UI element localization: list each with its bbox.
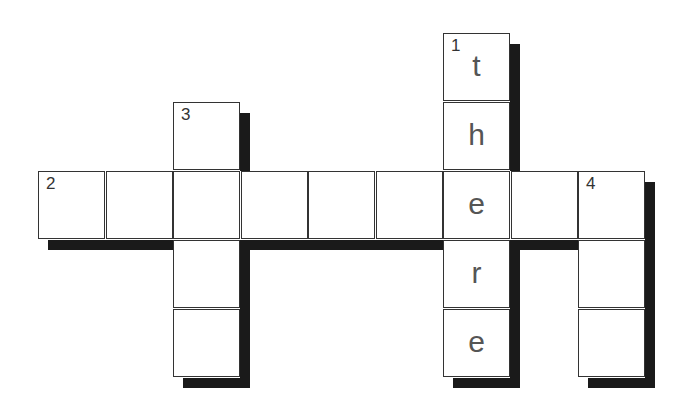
shadow-1-lower-right [510,240,520,388]
crossword-cell[interactable] [173,171,240,239]
crossword-cell[interactable]: r [443,240,510,308]
clue-number: 3 [181,106,190,123]
shadow-4-right [645,182,655,388]
crossword-cell[interactable]: 1t [443,33,510,101]
crossword-cell[interactable] [173,240,240,308]
shadow-2-bottom-mid [240,240,443,250]
crossword-cell[interactable]: 4 [578,171,645,239]
crossword-cell[interactable] [376,171,443,239]
crossword-cell[interactable] [106,171,173,239]
crossword-cell[interactable] [578,240,645,308]
shadow-2-bottom-left [48,240,173,250]
crossword-cell[interactable]: 3 [173,102,240,170]
crossword-cell[interactable]: h [443,102,510,170]
cell-letter: r [444,253,509,292]
shadow-1-down-right [510,44,520,171]
clue-number: 4 [586,175,595,192]
shadow-1-bottom [453,378,520,388]
shadow-4-bottom [588,378,655,388]
cell-letter: e [444,184,509,223]
shadow-3-top-right [240,113,250,171]
crossword-cell[interactable] [308,171,375,239]
crossword-cell[interactable]: e [443,309,510,377]
cell-letter: h [444,115,509,154]
crossword-cell[interactable] [511,171,578,239]
crossword-cell[interactable] [578,309,645,377]
shadow-2-bottom-right [510,240,578,250]
crossword-cell[interactable]: e [443,171,510,239]
clue-number: 2 [46,175,55,192]
shadow-3-bottom [183,378,250,388]
crossword-cell[interactable]: 2 [38,171,105,239]
cell-letter: e [444,322,509,361]
shadow-3-lower-right [240,240,250,388]
cell-letter: t [444,46,509,85]
crossword-cell[interactable] [173,309,240,377]
crossword-board: 1t3h2e4re [0,0,685,406]
crossword-cell[interactable] [241,171,308,239]
